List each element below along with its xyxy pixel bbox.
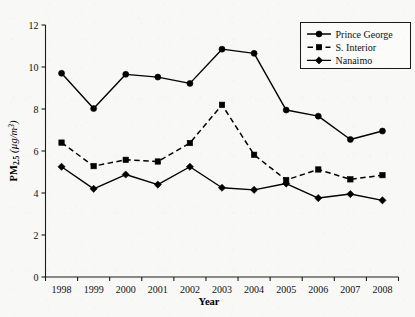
y-axis-title-units: (µg/m bbox=[8, 127, 20, 155]
x-axis: 1998199920002001200220032004200520062007… bbox=[46, 277, 399, 295]
y-tick-label: 4 bbox=[34, 188, 39, 199]
y-axis: 024681012 bbox=[29, 20, 46, 283]
svg-text:PM2.5 (µg/m3): PM2.5 (µg/m3) bbox=[7, 120, 21, 181]
data-point-marker bbox=[155, 74, 161, 80]
x-tick-label: 1999 bbox=[84, 284, 104, 295]
y-tick-label: 6 bbox=[34, 146, 39, 157]
data-point-marker bbox=[219, 46, 225, 52]
data-point-marker bbox=[379, 128, 385, 134]
x-tick-label: 2002 bbox=[180, 284, 200, 295]
data-point-marker bbox=[186, 163, 193, 170]
data-point-marker bbox=[155, 159, 160, 164]
data-point-marker bbox=[316, 167, 321, 172]
data-point-marker bbox=[59, 140, 64, 145]
series-line bbox=[62, 105, 383, 180]
data-point-marker bbox=[123, 157, 128, 162]
x-tick-label: 2008 bbox=[372, 284, 392, 295]
x-tick-label: 2005 bbox=[276, 284, 296, 295]
series-line bbox=[62, 167, 383, 201]
y-axis-title-units-close: ) bbox=[8, 120, 20, 125]
x-tick-label: 1998 bbox=[52, 284, 72, 295]
data-point-marker bbox=[91, 163, 96, 168]
data-point-marker bbox=[187, 140, 192, 145]
data-point-marker bbox=[251, 50, 257, 56]
x-tick-label: 2000 bbox=[116, 284, 136, 295]
legend: Prince GeorgeS. InteriorNanaimo bbox=[301, 23, 411, 69]
data-point-marker bbox=[219, 102, 224, 107]
x-axis-title: Year bbox=[199, 296, 220, 307]
legend-label: Nanaimo bbox=[336, 55, 373, 66]
y-tick-label: 10 bbox=[29, 62, 39, 73]
x-tick-label: 2006 bbox=[308, 284, 328, 295]
data-point-marker bbox=[250, 186, 257, 193]
data-point-marker bbox=[347, 190, 354, 197]
y-axis-title-subscript: 2.5 bbox=[12, 155, 21, 165]
x-tick-label: 2003 bbox=[212, 284, 232, 295]
data-point-marker bbox=[251, 152, 256, 157]
data-point-marker bbox=[122, 171, 129, 178]
data-point-marker bbox=[315, 194, 322, 201]
legend-label: Prince George bbox=[336, 29, 394, 40]
legend-marker-sample bbox=[316, 31, 322, 37]
data-point-marker bbox=[123, 71, 129, 77]
legend-marker-sample bbox=[316, 45, 321, 50]
y-tick-label: 0 bbox=[34, 272, 39, 283]
pm25-line-chart: 024681012 199819992000200120022003200420… bbox=[0, 0, 415, 317]
data-point-marker bbox=[348, 177, 353, 182]
data-point-marker bbox=[379, 197, 386, 204]
data-point-marker bbox=[187, 80, 193, 86]
data-point-marker bbox=[347, 136, 353, 142]
data-point-marker bbox=[154, 181, 161, 188]
series-s-interior bbox=[59, 102, 385, 183]
data-point-marker bbox=[218, 184, 225, 191]
y-tick-label: 2 bbox=[34, 230, 39, 241]
data-series-group bbox=[58, 46, 386, 204]
y-axis-title-base: PM bbox=[8, 165, 19, 181]
data-point-marker bbox=[315, 113, 321, 119]
x-tick-label: 2004 bbox=[244, 284, 264, 295]
legend-label: S. Interior bbox=[336, 42, 377, 53]
data-point-marker bbox=[283, 107, 289, 113]
y-tick-label: 12 bbox=[29, 20, 39, 31]
chart-canvas: 024681012 199819992000200120022003200420… bbox=[0, 0, 415, 317]
x-tick-label: 2007 bbox=[340, 284, 360, 295]
data-point-marker bbox=[59, 70, 65, 76]
data-point-marker bbox=[380, 172, 385, 177]
series-nanaimo bbox=[58, 163, 386, 204]
data-point-marker bbox=[91, 106, 97, 112]
y-tick-label: 8 bbox=[34, 104, 39, 115]
x-tick-label: 2001 bbox=[148, 284, 168, 295]
y-axis-title: PM2.5 (µg/m3) bbox=[7, 120, 21, 181]
